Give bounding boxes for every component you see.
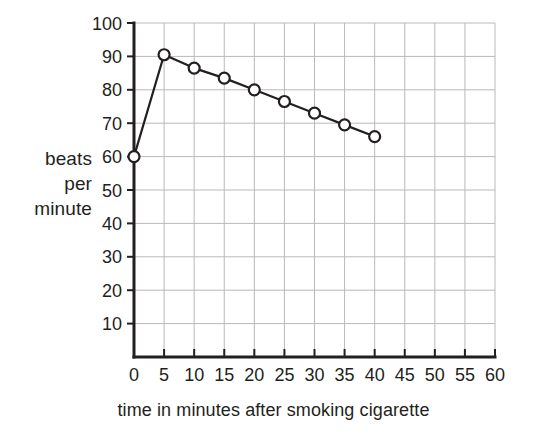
y-tick-label: 40 — [102, 214, 122, 234]
x-tick-label: 30 — [304, 365, 324, 385]
y-tick-labels: 102030405060708090100 — [92, 14, 122, 335]
y-tick-label: 20 — [102, 281, 122, 301]
x-tick-label: 35 — [335, 365, 355, 385]
x-tick-label: 60 — [485, 365, 505, 385]
x-tick-label: 25 — [274, 365, 294, 385]
y-tick-label: 50 — [102, 181, 122, 201]
x-tick-label: 55 — [455, 365, 475, 385]
y-tick-label: 80 — [102, 80, 122, 100]
x-tick-label: 0 — [129, 365, 139, 385]
data-point-marker — [159, 49, 170, 60]
x-tick-label: 40 — [365, 365, 385, 385]
y-tick-label: 100 — [92, 14, 122, 34]
grid-layer — [134, 23, 495, 357]
y-tick-label: 70 — [102, 114, 122, 134]
x-tick-label: 20 — [244, 365, 264, 385]
data-point-marker — [249, 84, 260, 95]
data-point-marker — [129, 151, 140, 162]
data-point-marker — [219, 73, 230, 84]
x-tick-label: 45 — [395, 365, 415, 385]
x-tick-label: 5 — [159, 365, 169, 385]
data-point-marker — [339, 119, 350, 130]
y-axis-title-line-3: minute — [8, 196, 92, 221]
x-tick-label: 15 — [214, 365, 234, 385]
data-point-marker — [309, 108, 320, 119]
line-chart: beats per minute 102030405060708090100 0… — [0, 0, 547, 436]
y-tick-label: 90 — [102, 47, 122, 67]
data-point-marker — [189, 63, 200, 74]
y-axis-title-line-2: per — [8, 171, 92, 196]
x-tick-labels: 051015202530354045505560 — [129, 365, 505, 385]
y-axis-title-line-1: beats — [8, 146, 92, 171]
x-tick-label: 50 — [425, 365, 445, 385]
data-point-marker — [279, 96, 290, 107]
data-point-marker — [369, 131, 380, 142]
x-tick-label: 10 — [184, 365, 204, 385]
x-axis-title: time in minutes after smoking cigarette — [0, 400, 547, 421]
y-tick-label: 60 — [102, 147, 122, 167]
y-tick-label: 30 — [102, 247, 122, 267]
y-tick-label: 10 — [102, 314, 122, 334]
y-axis-title: beats per minute — [8, 146, 92, 221]
